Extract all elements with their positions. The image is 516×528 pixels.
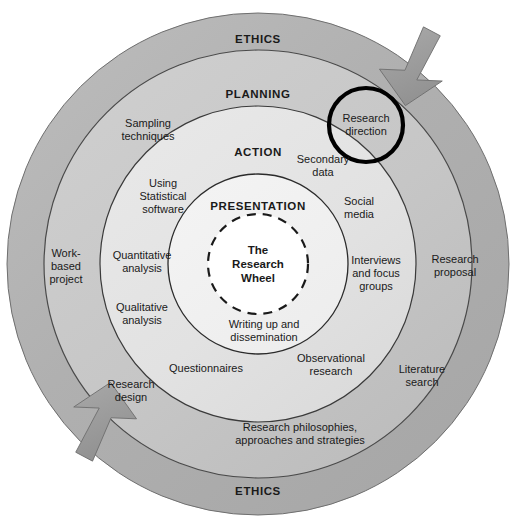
research-wheel-diagram: ETHICS ETHICS PLANNING ACTION PRESENTATI…	[0, 0, 516, 528]
wheel-svg	[0, 0, 516, 528]
ring-core	[208, 214, 308, 314]
